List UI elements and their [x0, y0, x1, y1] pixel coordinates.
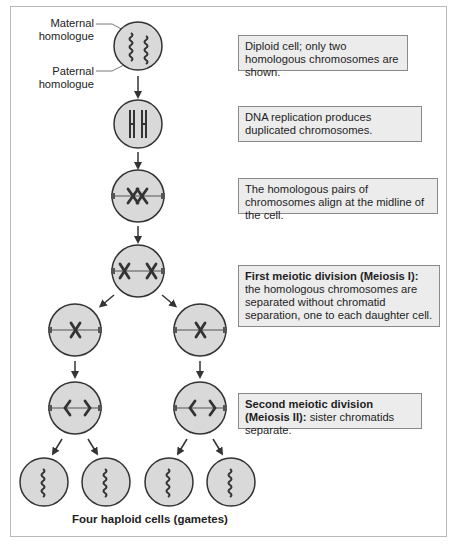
gamete-4 [207, 458, 255, 506]
note-alignment: The homologous pairs of chromosomes alig… [238, 178, 438, 214]
gamete-2 [82, 458, 130, 506]
cell-meiosis-1 [111, 245, 165, 297]
arrow-6-a [54, 439, 62, 452]
note-diploid: Diploid cell; only two homologous chromo… [238, 35, 408, 71]
cell-daughter-right [173, 304, 227, 356]
arrow-6-d [213, 439, 221, 452]
paternal-label-line1: Paternal [28, 65, 94, 78]
arrow-4-right [162, 295, 174, 305]
gamete-3 [145, 458, 193, 506]
paternal-label-line2: homologue [28, 78, 94, 91]
cell-diploid [114, 22, 162, 70]
cell-meiosis-2-left [48, 382, 102, 434]
maternal-label-line2: homologue [28, 30, 94, 43]
cell-meiosis-2-right [173, 382, 227, 434]
note-replication: DNA replication produces duplicated chro… [238, 106, 422, 142]
cell-aligned [111, 170, 165, 222]
paternal-homologue-label: Paternal homologue [28, 65, 94, 91]
cell-daughter-left [48, 304, 102, 356]
arrow-4-left [102, 295, 114, 305]
arrow-6-c [179, 439, 187, 452]
maternal-homologue-label: Maternal homologue [28, 17, 94, 43]
cell-replicated [114, 100, 162, 148]
gametes-caption: Four haploid cells (gametes) [72, 513, 228, 525]
arrow-6-b [88, 439, 96, 452]
maternal-label-line1: Maternal [28, 17, 94, 30]
note-meiosis-2: Second meiotic division (Meiosis II): si… [238, 393, 422, 429]
gamete-1 [20, 458, 68, 506]
note-meiosis-1: First meiotic division (Meiosis I): the … [238, 265, 440, 327]
